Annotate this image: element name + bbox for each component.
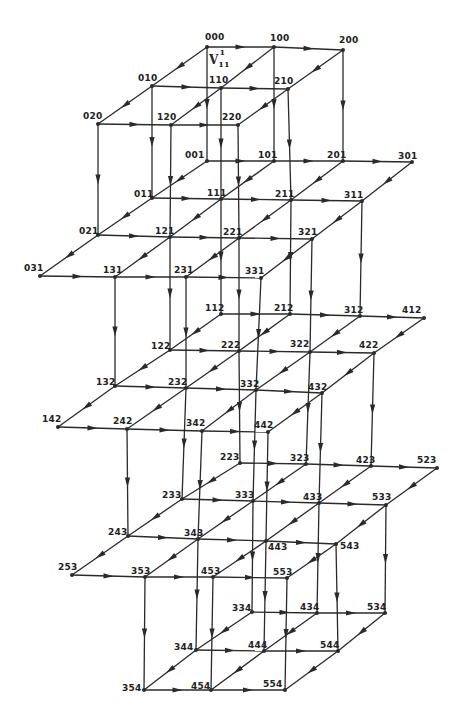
edge-412-422	[374, 318, 424, 353]
node-000	[205, 45, 209, 49]
arrow-icon	[372, 159, 382, 164]
edge-444-454	[211, 651, 264, 690]
node-label-432: 432	[308, 383, 328, 392]
node-344	[194, 648, 198, 652]
arrow-icon	[287, 139, 292, 149]
arrow-icon	[216, 386, 226, 391]
lattice-diagram: 0001002000101102100201202200011012013010…	[0, 0, 464, 722]
arrow-icon	[230, 429, 240, 434]
edge-242-342	[127, 427, 202, 432]
node-label-243: 243	[108, 528, 128, 537]
edge-110-120	[171, 88, 221, 125]
arrow-icon	[129, 122, 139, 127]
edge-010-110	[152, 84, 221, 89]
node-231	[184, 275, 188, 279]
node-label-232: 232	[168, 378, 188, 387]
arrow-icon	[112, 327, 117, 337]
node-412	[422, 316, 426, 320]
arrow-icon	[173, 687, 183, 692]
node-label-120: 120	[157, 113, 177, 122]
node-220	[236, 123, 240, 127]
arrow-icon	[251, 197, 261, 202]
arrow-icon	[212, 497, 222, 502]
arrow-icon	[383, 554, 388, 564]
node-label-242: 242	[113, 417, 133, 426]
node-label-334: 334	[232, 604, 252, 613]
arrow-icon	[159, 427, 169, 432]
edge-000-010	[152, 47, 207, 86]
arrow-icon	[269, 349, 279, 354]
edge-010-020	[98, 86, 152, 124]
node-442	[266, 430, 270, 434]
annotation-sup: 1	[219, 47, 225, 57]
edge-422-432	[322, 353, 374, 393]
node-label-311: 311	[344, 191, 364, 200]
arrow-icon	[225, 648, 235, 653]
edge-332-333	[252, 390, 257, 501]
node-label-101: 101	[258, 151, 278, 160]
arrow-icon	[194, 589, 199, 599]
node-label-011: 011	[134, 190, 154, 199]
node-label-344: 344	[174, 643, 194, 652]
node-label-000: 000	[205, 33, 225, 42]
edge-110-111	[218, 88, 223, 199]
edge-443-453	[213, 541, 266, 577]
arrow-icon	[249, 86, 259, 91]
edge-534-544	[338, 613, 385, 651]
arrow-icon	[252, 440, 257, 450]
node-110	[219, 86, 223, 90]
node-342	[200, 429, 204, 433]
edge-453-454	[209, 577, 214, 690]
edge-132-142	[58, 386, 115, 427]
arrow-icon	[181, 196, 191, 201]
node-label-321: 321	[298, 228, 318, 237]
edge-232-242	[127, 388, 186, 429]
edge-120-220	[171, 122, 238, 127]
arrow-icon	[304, 158, 314, 163]
arrow-icon	[347, 501, 357, 506]
node-label-223: 223	[220, 453, 240, 462]
node-label-544: 544	[320, 641, 340, 650]
arrow-icon	[333, 462, 343, 468]
edge-233-243	[128, 499, 182, 536]
arrow-icon	[337, 350, 347, 355]
edge-210-220	[238, 89, 288, 125]
edge-333-334	[250, 501, 255, 612]
edge-301-311	[362, 162, 412, 201]
arrow-icon	[250, 551, 255, 561]
arrow-icon	[268, 461, 278, 466]
arrow-icon	[237, 402, 242, 412]
edge-332-342	[202, 390, 256, 431]
node-label-342: 342	[186, 419, 206, 428]
edge-201-211	[291, 161, 343, 200]
node-label-442: 442	[254, 421, 274, 430]
node-label-354: 354	[122, 684, 142, 693]
node-label-454: 454	[191, 682, 211, 691]
node-label-534: 534	[367, 603, 387, 612]
edge-533-543	[336, 505, 386, 544]
edge-433-533	[319, 501, 386, 506]
node-label-343: 343	[184, 529, 204, 538]
edge-210-211	[287, 89, 292, 200]
arrow-icon	[218, 252, 223, 262]
edge-543-553	[287, 544, 336, 578]
edge-111-112	[218, 199, 223, 314]
edge-121-131	[115, 237, 170, 277]
edge-231-232	[183, 277, 188, 388]
arrow-icon	[142, 628, 147, 638]
node-label-423: 423	[356, 456, 376, 465]
node-label-031: 031	[24, 264, 44, 273]
node-label-331: 331	[245, 267, 265, 276]
node-354	[142, 688, 146, 692]
node-label-554: 554	[263, 680, 283, 689]
arrow-icon	[281, 499, 291, 505]
arrow-icon	[399, 464, 409, 470]
node-label-221: 221	[223, 228, 243, 237]
edge-433-443	[266, 503, 319, 541]
edge-112-122	[170, 314, 221, 350]
edge-100-101	[271, 47, 276, 161]
arrow-icon	[87, 425, 97, 430]
node-label-121: 121	[155, 227, 175, 236]
arrow-icon	[145, 384, 155, 389]
edge-layer	[0, 0, 464, 722]
